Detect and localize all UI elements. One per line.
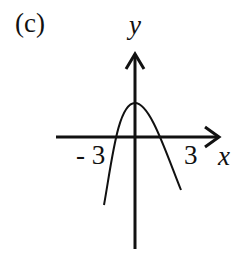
panel-label: (c)	[15, 10, 45, 37]
x-tick-label-neg3: - 3	[76, 142, 105, 169]
x-axis-label: x	[218, 143, 230, 170]
plot-svg	[0, 0, 241, 258]
parabola-curve	[104, 103, 181, 205]
y-axis-label: y	[129, 12, 141, 39]
x-tick-label-pos3: 3	[184, 142, 198, 169]
figure: (c) y - 3 3 x	[0, 0, 241, 258]
